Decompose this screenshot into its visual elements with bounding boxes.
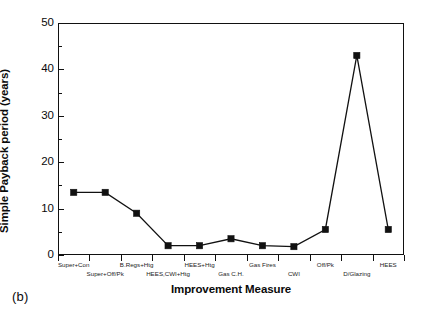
data-point-marker: [165, 243, 171, 249]
figure-caption: (b): [12, 289, 29, 304]
data-point-marker: [228, 236, 234, 242]
data-point-marker: [102, 189, 108, 195]
series-markers: [71, 52, 392, 249]
data-point-marker: [354, 52, 360, 58]
data-point-marker: [385, 226, 391, 232]
data-point-marker: [134, 210, 140, 216]
data-point-marker: [196, 243, 202, 249]
figure-b: Simple Payback period (years) 0102030405…: [0, 0, 432, 319]
data-point-marker: [71, 189, 77, 195]
data-point-marker: [322, 226, 328, 232]
series-line: [74, 55, 389, 246]
data-point-marker: [259, 243, 265, 249]
data-point-marker: [291, 244, 297, 250]
data-layer: [0, 0, 432, 319]
